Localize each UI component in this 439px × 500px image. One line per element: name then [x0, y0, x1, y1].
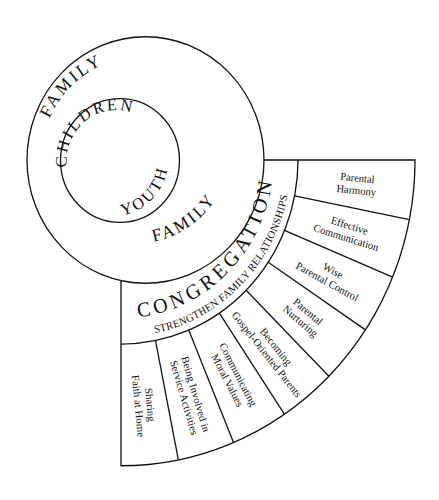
segment-label-line: Harmony	[336, 182, 377, 198]
family-congregation-diagram: FAMILY FAMILY CHILDREN YOUTH CONGREGATIO…	[0, 0, 439, 500]
segment-label: SharingFaith at Home	[130, 373, 160, 438]
segment-label-line: Faith at Home	[130, 374, 148, 438]
diagram-geometry: FAMILY FAMILY CHILDREN YOUTH CONGREGATIO…	[27, 37, 415, 466]
segment-divider	[295, 196, 410, 220]
segment-label: Being Involved inService Activities	[168, 354, 213, 437]
segment-label: ParentalHarmony	[336, 169, 378, 198]
segment-label: CommunicatingMoral Values	[207, 340, 260, 414]
segment-label: WiseParental Control	[294, 248, 366, 304]
segment-divider	[156, 341, 179, 460]
